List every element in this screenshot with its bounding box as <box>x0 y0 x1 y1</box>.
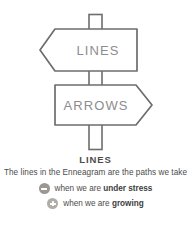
list-item: when we are under stress <box>0 181 191 196</box>
minus-circle-icon <box>39 183 50 194</box>
caption-block: LINES The lines in the Enneagram are the… <box>0 153 191 211</box>
minus-bar <box>41 188 47 190</box>
bullet-emphasis-stress: under stress <box>103 184 152 193</box>
bullet-emphasis-growing: growing <box>112 199 144 208</box>
bullet-list: when we are under stress when we are gro… <box>0 181 191 211</box>
plus-circle-icon <box>47 198 58 209</box>
plus-bar-v <box>52 201 54 206</box>
caption-description: The lines in the Enneagram are the paths… <box>0 166 191 179</box>
bullet-prefix-stress: when we are <box>55 184 104 193</box>
arrows-sign[interactable]: ARROWS <box>55 85 152 125</box>
arrows-sign-label: ARROWS <box>63 98 128 113</box>
enneagram-lines-card: LINES ARROWS LINES The lines in the Enne… <box>0 0 191 230</box>
lines-sign[interactable]: LINES <box>40 29 137 71</box>
bullet-text-growing: when we are growing <box>63 198 144 209</box>
caption-title: LINES <box>0 153 191 166</box>
bullet-prefix-growing: when we are <box>63 199 112 208</box>
bullet-text-stress: when we are under stress <box>55 183 153 194</box>
list-item: when we are growing <box>0 196 191 211</box>
lines-sign-label: LINES <box>76 43 119 58</box>
signpost-illustration: LINES ARROWS <box>0 0 191 155</box>
signpost-svg: LINES ARROWS <box>0 0 191 155</box>
